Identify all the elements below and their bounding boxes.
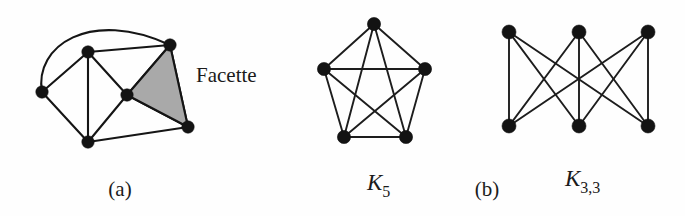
graph-edge — [88, 52, 127, 95]
graph-vertex — [82, 46, 94, 58]
k5-vertex-group — [317, 17, 431, 143]
panel-k5-graph: K5 — [317, 17, 431, 200]
graph-vertex — [164, 39, 176, 51]
graph-vertex — [502, 119, 516, 133]
k5-label-subscript: 5 — [382, 183, 390, 200]
k33-label-subscript: 3,3 — [580, 179, 600, 196]
graph-edge — [374, 24, 406, 137]
graph-edge — [88, 45, 170, 52]
graph-edge — [374, 24, 425, 69]
caption-b: (b) — [475, 177, 500, 201]
graph-edge — [406, 69, 425, 137]
graph-vertex — [641, 119, 655, 133]
k5-edge-group — [324, 24, 425, 137]
graph-edge — [324, 24, 374, 69]
k33-edge-group — [509, 32, 648, 126]
panel-planar-graph: Facette (a) — [36, 30, 257, 201]
graph-edge — [324, 69, 344, 137]
k33-label-main: K — [564, 166, 582, 191]
graph-vertex — [367, 17, 380, 30]
graph-vertex — [182, 121, 194, 133]
graph-vertex — [572, 25, 586, 39]
graph-vertex — [36, 86, 48, 98]
graph-edge — [344, 69, 425, 137]
facette-region — [127, 45, 188, 127]
graph-vertex — [337, 130, 350, 143]
graph-vertex — [82, 136, 94, 148]
panel-k33-graph: K3,3 (b) — [475, 25, 655, 201]
graph-vertex — [121, 89, 133, 101]
graph-vertex — [641, 25, 655, 39]
graph-vertex — [572, 119, 586, 133]
k5-label-main: K — [366, 170, 384, 195]
graph-edge — [42, 92, 88, 142]
k5-label: K5 — [366, 170, 390, 200]
facette-label: Facette — [196, 63, 257, 87]
graph-vertex — [317, 62, 330, 75]
graph-edge — [88, 127, 188, 142]
graph-vertex — [418, 62, 431, 75]
figure-canvas: Facette (a) K5 K3,3 (b) — [0, 0, 685, 216]
graph-vertex — [502, 25, 516, 39]
caption-a: (a) — [108, 177, 131, 201]
k33-label: K3,3 — [564, 166, 600, 196]
graph-vertex — [399, 130, 412, 143]
graph-theory-figure: Facette (a) K5 K3,3 (b) — [0, 0, 685, 216]
graph-edge — [324, 69, 406, 137]
graph-edge — [344, 24, 374, 137]
graph-edge — [88, 95, 127, 142]
shaded-facette-polygon — [127, 45, 188, 127]
